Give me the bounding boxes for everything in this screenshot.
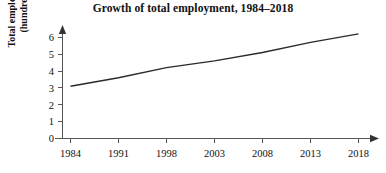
y-axis-ticks (58, 37, 63, 138)
x-tick-label-1984: 1984 (60, 148, 82, 159)
x-axis-arrow-icon (370, 135, 379, 142)
x-tick-label-2013: 2013 (300, 148, 321, 159)
x-tick-label-2008: 2008 (252, 148, 273, 159)
x-tick-label-1998: 1998 (156, 148, 177, 159)
y-tick-label-2: 2 (49, 100, 54, 111)
y-tick-label-3: 3 (49, 83, 54, 94)
y-tick-label-5: 5 (49, 49, 54, 60)
x-tick-label-2018: 2018 (348, 148, 369, 159)
x-axis-ticks (71, 139, 359, 144)
plot-area: 0 1 2 3 4 5 6 1984 1991 1998 2003 2008 2… (0, 0, 386, 173)
y-tick-label-6: 6 (49, 32, 54, 43)
y-tick-label-0: 0 (49, 133, 54, 144)
x-tick-label-2003: 2003 (204, 148, 225, 159)
y-axis-arrow-icon (59, 25, 66, 34)
y-tick-label-1: 1 (49, 116, 54, 127)
x-axis-tick-labels: 1984 1991 1998 2003 2008 2013 2018 (60, 148, 369, 159)
employment-trend-line (71, 34, 359, 86)
x-tick-label-1991: 1991 (108, 148, 129, 159)
chart-figure: Growth of total employment, 1984–2018 To… (0, 0, 386, 173)
y-axis-tick-labels: 0 1 2 3 4 5 6 (49, 32, 55, 144)
y-tick-label-4: 4 (49, 66, 55, 77)
